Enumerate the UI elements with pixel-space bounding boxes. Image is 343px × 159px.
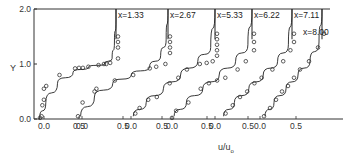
measurement-marker [252, 32, 256, 36]
profile-x-5-33: x=5.33 [133, 9, 243, 116]
measurement-marker [205, 61, 209, 65]
measurement-marker [116, 40, 120, 44]
y-tick-label: 1.0 [19, 59, 31, 69]
measurement-marker [131, 73, 135, 77]
measurement-marker [292, 32, 296, 36]
x-tick-label: 0.5 [290, 121, 302, 131]
x-tick-label: 0.0 [166, 121, 178, 131]
profile-x-6-22: x=6.22 [170, 9, 280, 120]
y-tick-label: 0.0 [19, 114, 31, 124]
measurement-marker [44, 84, 48, 88]
measurement-marker [41, 103, 45, 107]
x-axis-label-subscript: o [231, 148, 235, 154]
profile-x-1-33: x=1.33 [38, 9, 144, 120]
x-tick-label: 0.0 [76, 121, 88, 131]
measurement-marker [244, 59, 248, 63]
measurement-marker [177, 76, 181, 80]
profile-label: x=1.33 [118, 10, 144, 20]
measurement-marker [95, 87, 99, 91]
measurement-marker [168, 35, 172, 39]
measurement-marker [187, 101, 191, 105]
measurement-marker [292, 76, 296, 80]
measurement-marker [154, 65, 158, 69]
measurement-marker [108, 61, 112, 65]
profile-label: x=5.33 [217, 10, 243, 20]
x-tick-label: 0.0 [38, 121, 50, 131]
prediction-curve [133, 9, 215, 116]
velocity-profile-chart: 0.01.02.0 Y x=1.33x=2.67x=5.33x=6.22x=7.… [0, 0, 343, 159]
profile-label: x=8.00 [303, 27, 329, 37]
measurement-marker [116, 46, 120, 50]
profile-label: x=2.67 [170, 10, 196, 20]
measurement-marker [116, 35, 120, 39]
profile-x-8-00: x=8.00 [262, 9, 329, 118]
measurement-marker [73, 67, 77, 71]
measurement-marker [215, 54, 219, 58]
y-axis-label: Y [10, 63, 16, 73]
prediction-curve [265, 9, 322, 116]
measurement-marker [215, 32, 219, 36]
measurement-marker [252, 40, 256, 44]
profile-label: x=6.22 [254, 10, 280, 20]
measurement-marker [289, 48, 293, 52]
measurement-marker [198, 62, 202, 66]
measurement-marker [215, 48, 219, 52]
measurement-marker [252, 48, 256, 52]
measurement-marker [292, 40, 296, 44]
measurement-marker [224, 76, 228, 80]
x-axis-label: u/uo [218, 142, 235, 154]
measurement-marker [81, 101, 85, 105]
profile-x-2-67: x=2.67 [76, 9, 196, 118]
x-tick-label: 0.0 [125, 121, 137, 131]
measurement-marker [215, 37, 219, 41]
measurement-marker [164, 62, 168, 66]
profile-panels: x=1.33x=2.67x=5.33x=6.22x=7.11x=8.00 [38, 9, 329, 120]
measurement-marker [58, 73, 62, 77]
prediction-curve [81, 9, 168, 116]
measurement-marker [281, 59, 285, 63]
axes-frame [34, 9, 343, 119]
measurement-marker [168, 40, 172, 44]
measurement-marker [168, 51, 172, 55]
measurement-marker [211, 59, 215, 63]
measurement-marker [215, 43, 219, 47]
x-tick-label: 0.5 [242, 121, 254, 131]
y-tick-label: 2.0 [19, 4, 31, 14]
measurement-marker [116, 57, 120, 61]
x-tick-label: 0.0 [254, 121, 266, 131]
measurement-marker [105, 62, 109, 66]
x-axis-label-main: u/u [218, 142, 231, 152]
measurement-marker [168, 46, 172, 50]
x-tick-label: 0.0 [209, 121, 221, 131]
profile-x-7-11: x=7.11 [224, 9, 320, 116]
measurement-marker [199, 87, 203, 91]
profile-label: x=7.11 [294, 10, 319, 20]
measurement-marker [42, 98, 46, 102]
measurement-marker [280, 90, 284, 94]
measurement-marker [236, 68, 240, 72]
